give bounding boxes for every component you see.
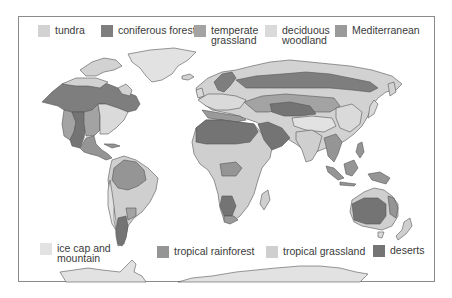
legend-tundra: tundra	[38, 25, 85, 37]
new-zealand	[396, 218, 412, 240]
java	[340, 182, 356, 186]
patagonia-desert	[116, 216, 128, 246]
central-america	[80, 136, 112, 160]
legend-deciduous-woodland: deciduous woodland	[265, 25, 330, 45]
iceland	[182, 74, 194, 80]
legend-ice-cap-and-mountain: ice cap and mountain	[40, 243, 111, 263]
caribbean	[104, 144, 120, 148]
legend-temperate-grassland: temperate grassland	[194, 25, 258, 45]
australia-desert	[352, 198, 386, 224]
tasmania	[378, 232, 384, 238]
legend-label: deciduous woodland	[282, 25, 330, 45]
mediterranean-swatch	[335, 25, 347, 37]
deciduous-woodland-swatch	[265, 25, 277, 37]
legend-tropical-rainforest: tropical rainforest	[157, 246, 255, 258]
legend-tropical-grassland: tropical grassland	[266, 246, 365, 258]
legend-label: ice cap and mountain	[57, 243, 111, 263]
legend-mediterranean: Mediterranean	[335, 25, 420, 37]
temperate-grassland-swatch	[194, 25, 206, 37]
deserts-swatch	[373, 245, 385, 257]
india	[296, 130, 322, 162]
tundra-swatch	[38, 25, 50, 37]
sahara-desert	[196, 120, 258, 144]
philippines	[356, 142, 364, 158]
new-guinea	[368, 172, 390, 184]
legend-label: deserts	[390, 245, 424, 255]
arctic-islands-tundra	[80, 58, 122, 76]
borneo	[344, 160, 358, 176]
coniferous-forest-swatch	[101, 25, 113, 37]
legend-label: coniferous forest	[118, 25, 196, 35]
southeast-asia-rainforest	[324, 134, 342, 162]
tropical-grassland-swatch	[266, 246, 278, 258]
legend-coniferous-forest: coniferous forest	[101, 25, 196, 37]
legend-label: temperate grassland	[211, 25, 258, 45]
tropical-rainforest-swatch	[157, 246, 169, 258]
legend-label: Mediterranean	[352, 25, 420, 35]
pampas-grassland	[126, 208, 136, 220]
ice-cap-and-mountain-swatch	[40, 243, 52, 255]
legend-label: tropical grassland	[283, 246, 365, 256]
legend-label: tundra	[55, 25, 85, 35]
legend-label: tropical rainforest	[174, 246, 255, 256]
sumatra	[326, 166, 344, 180]
legend-deserts: deserts	[373, 245, 424, 257]
antarctica-east	[178, 266, 368, 282]
madagascar	[260, 190, 270, 210]
